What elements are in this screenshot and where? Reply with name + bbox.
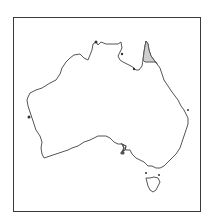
shark-bay-feature bbox=[28, 116, 31, 119]
flinders-island bbox=[158, 174, 160, 176]
gulf-island bbox=[121, 53, 123, 55]
australia-mainland bbox=[27, 41, 188, 168]
mornington-island bbox=[133, 68, 135, 70]
melville-island bbox=[95, 41, 98, 44]
king-island bbox=[145, 172, 147, 174]
tasmania bbox=[146, 177, 160, 192]
cape-york-highlight bbox=[143, 41, 157, 64]
kangaroo-island bbox=[121, 152, 124, 154]
spencer-gulf bbox=[122, 144, 126, 152]
east-coast-island bbox=[187, 109, 189, 111]
australia-map bbox=[0, 0, 209, 220]
